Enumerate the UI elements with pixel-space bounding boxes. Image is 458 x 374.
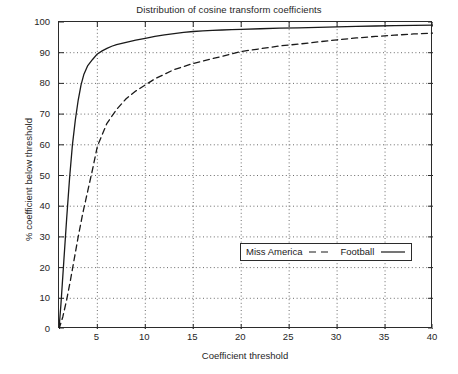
- y-axis-ticks: [59, 22, 433, 329]
- legend-label-0: Miss America: [246, 247, 302, 257]
- y-tick-label-10: 100: [6, 16, 50, 27]
- series-line-1: [59, 25, 433, 329]
- y-tick-label-1: 10: [6, 292, 50, 303]
- plot-area: [58, 21, 432, 328]
- x-tick-label-6: 35: [364, 331, 404, 342]
- legend-label-1: Football: [340, 247, 374, 257]
- chart-canvas: [59, 22, 433, 329]
- x-tick-label-5: 30: [316, 331, 356, 342]
- chart-title: Distribution of cosine transform coeffic…: [0, 4, 458, 15]
- series-line-0: [59, 33, 433, 329]
- x-gridlines: [97, 22, 385, 329]
- x-axis-label: Coefficient threshold: [58, 350, 432, 361]
- y-axis-label: % coefficient below threshold: [23, 80, 34, 280]
- chart-figure: Distribution of cosine transform coeffic…: [0, 0, 458, 374]
- x-tick-label-7: 40: [412, 331, 452, 342]
- legend-solid-line-icon: [380, 243, 406, 261]
- y-tick-label-0: 0: [6, 323, 50, 334]
- chart-legend: Miss America Football: [240, 243, 412, 261]
- x-tick-label-0: 5: [76, 331, 116, 342]
- y-tick-label-9: 90: [6, 46, 50, 57]
- x-tick-label-2: 15: [172, 331, 212, 342]
- y-gridlines: [59, 53, 433, 299]
- x-tick-label-3: 20: [220, 331, 260, 342]
- x-tick-label-4: 25: [268, 331, 308, 342]
- data-series-layer: [59, 25, 433, 329]
- x-tick-label-1: 10: [124, 331, 164, 342]
- legend-dashed-line-icon: [308, 243, 334, 261]
